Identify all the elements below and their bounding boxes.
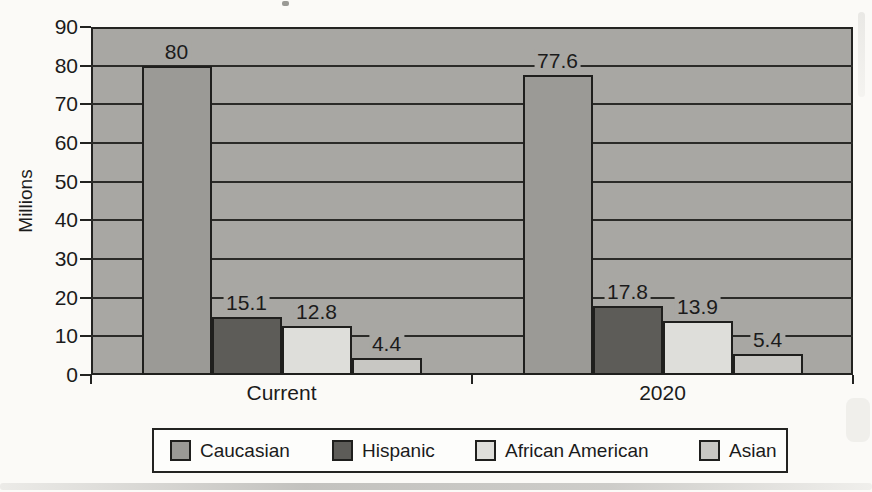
y-axis-tick-label: 20 <box>26 286 78 310</box>
bar-hispanic <box>212 317 282 375</box>
legend-item-asian: Asian <box>699 440 777 462</box>
scan-artifact <box>846 398 870 442</box>
legend-item-caucasian: Caucasian <box>170 440 290 462</box>
legend-label: Caucasian <box>200 440 290 462</box>
legend-swatch <box>170 440 191 461</box>
bar-african-american <box>282 326 352 375</box>
y-axis-tick-label: 60 <box>26 131 78 155</box>
bar-caucasian <box>142 66 212 375</box>
bar-african-american <box>663 321 733 375</box>
bar-value-label: 15.1 <box>223 291 270 314</box>
scan-artifact <box>282 1 289 6</box>
legend-label: African American <box>505 440 649 462</box>
y-axis-tick <box>80 181 91 183</box>
x-axis-category-label: 2020 <box>639 381 686 405</box>
x-axis-tick <box>852 375 854 384</box>
y-axis-tick <box>80 258 91 260</box>
bar-value-label: 77.6 <box>534 49 581 72</box>
bar-asian <box>733 354 803 375</box>
x-axis-tick <box>471 375 473 384</box>
legend-item-hispanic: Hispanic <box>332 440 435 462</box>
y-axis-tick-label: 80 <box>26 54 78 78</box>
y-axis-tick <box>80 65 91 67</box>
y-axis-tick <box>80 26 91 28</box>
y-axis-tick <box>80 219 91 221</box>
legend-item-african-american: African American <box>475 440 649 462</box>
x-axis-category-label: Current <box>246 381 316 405</box>
bar-chart-figure: Millions 01020304050607080908077.615.117… <box>0 0 872 492</box>
y-axis-tick <box>80 297 91 299</box>
legend: CaucasianHispanicAfrican AmericanAsian <box>152 428 788 473</box>
y-axis-tick-label: 50 <box>26 170 78 194</box>
y-axis-tick-label: 0 <box>26 363 78 387</box>
y-axis-tick-label: 30 <box>26 247 78 271</box>
scan-artifact <box>858 12 865 97</box>
y-axis-tick <box>80 142 91 144</box>
y-axis-tick <box>80 335 91 337</box>
y-axis-tick-label: 40 <box>26 208 78 232</box>
bar-asian <box>352 358 422 375</box>
bar-value-label: 5.4 <box>750 328 785 351</box>
y-axis-tick <box>80 103 91 105</box>
bar-caucasian <box>523 75 593 375</box>
bar-value-label: 17.8 <box>604 280 651 303</box>
bar-value-label: 12.8 <box>293 300 340 323</box>
y-axis-tick-label: 10 <box>26 324 78 348</box>
y-axis-tick-label: 90 <box>26 15 78 39</box>
bar-value-label: 80 <box>162 40 191 63</box>
bar-value-label: 13.9 <box>674 295 721 318</box>
x-axis-tick <box>90 375 92 384</box>
bar-hispanic <box>593 306 663 375</box>
legend-label: Hispanic <box>362 440 435 462</box>
legend-label: Asian <box>729 440 777 462</box>
legend-swatch <box>475 440 496 461</box>
bar-value-label: 4.4 <box>369 332 404 355</box>
scan-artifact <box>0 483 872 490</box>
y-axis-tick-label: 70 <box>26 92 78 116</box>
legend-swatch <box>332 440 353 461</box>
legend-swatch <box>699 440 720 461</box>
